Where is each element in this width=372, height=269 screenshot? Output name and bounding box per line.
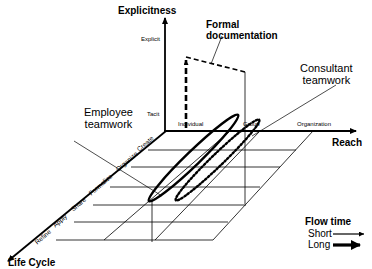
consultant-teamwork-line2: teamwork	[300, 74, 353, 86]
legend-title: Flow time	[305, 217, 351, 227]
explicitness-axis-title: Explicitness	[118, 6, 176, 16]
consultant-teamwork-label: Consultant teamwork	[300, 62, 353, 86]
employee-teamwork-line2: teamwork	[84, 118, 133, 130]
life-cycle-axis-title: Life Cycle	[8, 258, 55, 268]
tick-individual: Individual	[178, 121, 203, 127]
formal-documentation-line2: documentation	[206, 30, 278, 41]
tick-tacit: Tacit	[147, 111, 159, 117]
consultant-teamwork-ellipse	[172, 115, 264, 204]
formal-documentation-label: Formal documentation	[206, 19, 278, 41]
employee-teamwork-label: Employee teamwork	[84, 106, 133, 130]
tick-explicit: Explicit	[141, 36, 160, 42]
consultant-teamwork-line1: Consultant	[300, 62, 353, 74]
formal-documentation-line1: Formal	[206, 19, 278, 30]
tick-group: Group	[243, 121, 260, 127]
legend-short: Short	[308, 229, 332, 239]
legend-long: Long	[308, 240, 330, 250]
tick-organization: Organization	[297, 121, 331, 127]
reach-axis-title: Reach	[332, 138, 362, 148]
employee-teamwork-line1: Employee	[84, 106, 133, 118]
legend-arrows	[333, 234, 364, 245]
